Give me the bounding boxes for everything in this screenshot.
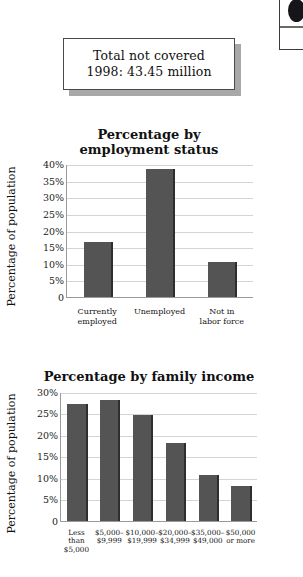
- y-axis-tick-label: 15%: [37, 452, 61, 462]
- x-axis-tick-label: Less than $5,000: [64, 529, 89, 554]
- chart-title-employment-status: Percentage by employment status: [0, 128, 272, 157]
- y-axis-tick-label: 35%: [43, 177, 67, 187]
- gridline: [61, 479, 257, 480]
- bar: [84, 242, 113, 297]
- y-axis-tick-label: 0: [52, 517, 61, 527]
- x-axis-tick-label: $20,000– $34,999: [158, 529, 191, 546]
- y-axis-tick-label: 30%: [37, 388, 61, 398]
- bar: [100, 400, 120, 520]
- bar: [199, 475, 219, 520]
- cut-off-sidebar-box: [279, 0, 303, 50]
- y-axis-tick-label: 20%: [37, 431, 61, 441]
- chart-employment-status: Percentage by employment status Percenta…: [0, 128, 272, 346]
- total-not-covered-callout: Total not covered 1998: 43.45 million: [63, 38, 235, 90]
- y-axis-tick-label: 30%: [43, 194, 67, 204]
- gridline: [61, 457, 257, 458]
- chart-title-family-income: Percentage by family income: [0, 370, 272, 385]
- bar: [166, 443, 186, 520]
- y-axis-tick-label: 25%: [43, 210, 67, 220]
- y-axis-label-family-income: Percentage of population: [0, 389, 22, 539]
- gridline: [61, 414, 257, 415]
- bar: [231, 486, 251, 520]
- x-axis-tick-label: Unemployed: [134, 307, 185, 316]
- y-axis-tick-label: 5%: [49, 277, 67, 287]
- bar: [133, 415, 153, 520]
- x-axis-tick-label: Currently employed: [78, 307, 117, 326]
- y-axis-tick-label: 20%: [43, 227, 67, 237]
- plot-area-family-income: 05%10%15%20%25%30%: [60, 393, 257, 522]
- gridline: [67, 165, 253, 166]
- x-axis-tick-label: $50,000 or more: [226, 529, 256, 546]
- y-axis-tick-label: 10%: [43, 260, 67, 270]
- gridline: [61, 500, 257, 501]
- x-axis-tick-label: $5,000– $9,999: [95, 529, 124, 546]
- bar: [208, 262, 237, 297]
- x-axis-tick-label: $10,000– $19,999: [125, 529, 158, 546]
- filled-circle-icon: [288, 0, 303, 22]
- x-axis-tick-label: Not in labor force: [200, 307, 244, 326]
- chart-title-line-1: Percentage by: [26, 128, 272, 143]
- bar: [146, 169, 175, 297]
- divider: [280, 26, 303, 28]
- y-axis-tick-label: 5%: [43, 495, 61, 505]
- gridline: [61, 393, 257, 394]
- y-axis-tick-label: 10%: [37, 474, 61, 484]
- chart-family-income: Percentage by family income Percentage o…: [0, 370, 272, 574]
- chart-title-line-1: Percentage by family income: [26, 370, 272, 385]
- x-axis-tick-label: $35,000– $49,000: [191, 529, 224, 546]
- y-axis-tick-label: 0: [58, 293, 67, 303]
- y-axis-tick-label: 15%: [43, 243, 67, 253]
- gridline: [61, 436, 257, 437]
- plot-area-employment-status: 05%10%15%20%25%30%35%40%: [66, 165, 253, 298]
- y-axis-tick-label: 40%: [43, 160, 67, 170]
- y-axis-tick-label: 25%: [37, 409, 61, 419]
- y-axis-label-employment-status: Percentage of population: [0, 161, 22, 311]
- callout-line-2: 1998: 43.45 million: [86, 64, 211, 81]
- callout-line-1: Total not covered: [93, 48, 205, 65]
- bar: [67, 404, 87, 520]
- chart-title-line-2: employment status: [26, 143, 272, 158]
